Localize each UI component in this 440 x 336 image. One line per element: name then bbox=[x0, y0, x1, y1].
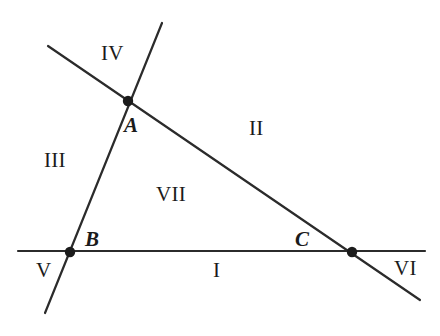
descending-diagonal-line bbox=[48, 46, 420, 300]
point-label-c: C bbox=[295, 229, 309, 250]
point-label-a: A bbox=[124, 115, 138, 136]
region-label-ii: II bbox=[249, 118, 264, 139]
vertex-point-a bbox=[123, 96, 133, 106]
region-label-iv: IV bbox=[101, 43, 124, 64]
vertex-point-c bbox=[347, 247, 357, 257]
point-label-b: B bbox=[85, 229, 99, 250]
region-label-vii: VII bbox=[156, 184, 186, 205]
geometry-diagram: IV II III VII V I VI A B C bbox=[0, 0, 440, 336]
diagram-canvas bbox=[0, 0, 440, 336]
vertex-point-b bbox=[65, 247, 75, 257]
region-label-vi: VI bbox=[394, 258, 417, 279]
region-label-iii: III bbox=[44, 150, 66, 171]
region-label-v: V bbox=[36, 260, 51, 281]
region-label-i: I bbox=[213, 260, 220, 281]
